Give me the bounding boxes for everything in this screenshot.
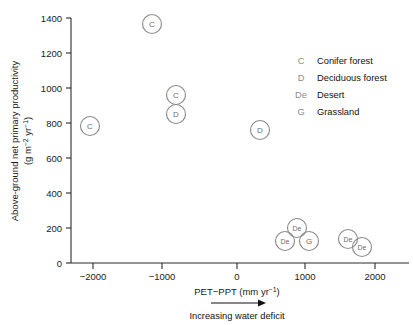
scatter-chart-figure: 1400 1200 1000 800 600 400 bbox=[0, 0, 413, 325]
marker-label: C bbox=[173, 91, 179, 100]
y-tick-label: 1200 bbox=[41, 48, 62, 59]
plot-canvas: 1400 1200 1000 800 600 400 bbox=[0, 0, 413, 325]
y-axis-title-line2: (g m−2 yr−1) bbox=[22, 117, 34, 165]
x-tick-label: 2000 bbox=[364, 271, 385, 282]
legend-label: Desert bbox=[317, 90, 345, 100]
legend: C Conifer forest D Deciduous forest De D… bbox=[295, 56, 387, 117]
legend-item-desert[interactable]: De Desert bbox=[295, 90, 345, 100]
marker-label: De bbox=[293, 225, 302, 232]
y-tick-label: 0 bbox=[57, 258, 62, 269]
marker-label: G bbox=[306, 237, 312, 246]
y-tick-label: 1000 bbox=[41, 83, 62, 94]
y-tick-0: 0 bbox=[57, 258, 71, 269]
y-tick-600: 600 bbox=[46, 153, 71, 164]
y-tick-1400: 1400 bbox=[41, 13, 71, 24]
x-tick-label: −2000 bbox=[80, 271, 107, 282]
y-tick-label: 200 bbox=[46, 223, 62, 234]
x-tick-label: −1000 bbox=[149, 271, 176, 282]
legend-label: Grassland bbox=[317, 107, 359, 117]
data-point-marker[interactable]: G bbox=[300, 232, 319, 251]
data-points-group: C C C D D De bbox=[81, 15, 372, 257]
data-point-marker[interactable]: De bbox=[288, 219, 307, 238]
y-axis-unit-main: (g m bbox=[22, 146, 33, 165]
x-tick-neg1000: −1000 bbox=[149, 263, 176, 282]
legend-key: De bbox=[295, 90, 307, 100]
x-tick-label: 0 bbox=[234, 271, 239, 282]
data-point-marker[interactable]: C bbox=[143, 15, 162, 34]
data-point-marker[interactable]: De bbox=[276, 232, 295, 251]
y-tick-800: 800 bbox=[46, 118, 71, 129]
x-tick-0: 0 bbox=[234, 263, 239, 282]
marker-label: De bbox=[358, 244, 367, 251]
y-tick-label: 400 bbox=[46, 188, 62, 199]
legend-key: G bbox=[297, 107, 304, 117]
x-tick-2000: 2000 bbox=[364, 263, 385, 282]
marker-label: De bbox=[281, 238, 290, 245]
x-axis-title-end: ) bbox=[277, 286, 280, 297]
y-tick-400: 400 bbox=[46, 188, 71, 199]
y-tick-1000: 1000 bbox=[41, 83, 71, 94]
legend-label: Conifer forest bbox=[317, 56, 373, 66]
y-axis-ticks: 1400 1200 1000 800 600 400 bbox=[41, 13, 71, 269]
y-axis-unit-end: ) bbox=[22, 117, 33, 120]
data-point-marker[interactable]: C bbox=[167, 86, 186, 105]
y-axis-title: Above-ground net primary productivity (g… bbox=[9, 60, 33, 221]
data-point-marker[interactable]: De bbox=[353, 238, 372, 257]
data-point-marker[interactable]: C bbox=[81, 117, 100, 136]
legend-key: C bbox=[298, 56, 305, 66]
x-axis-ticks: −2000 −1000 0 1000 2000 bbox=[80, 263, 386, 282]
water-deficit-label: Increasing water deficit bbox=[189, 311, 284, 321]
y-axis-unit-mid: yr bbox=[22, 128, 33, 139]
data-point-marker[interactable]: D bbox=[251, 121, 270, 140]
water-deficit-annotation: Increasing water deficit bbox=[189, 300, 284, 322]
water-deficit-arrow-head bbox=[258, 300, 266, 307]
y-tick-label: 600 bbox=[46, 153, 62, 164]
x-tick-neg2000: −2000 bbox=[80, 263, 107, 282]
data-point-marker[interactable]: D bbox=[167, 105, 186, 124]
x-tick-label: 1000 bbox=[294, 271, 315, 282]
y-axis-title-line1: Above-ground net primary productivity bbox=[9, 60, 20, 221]
x-axis-title-main: PET−PPT (mm yr bbox=[194, 286, 269, 297]
x-axis-title: PET−PPT (mm yr−1) bbox=[194, 286, 279, 298]
legend-key: D bbox=[298, 73, 305, 83]
x-tick-1000: 1000 bbox=[294, 263, 315, 282]
marker-label: C bbox=[87, 122, 93, 131]
legend-item-grassland[interactable]: G Grassland bbox=[297, 107, 359, 117]
y-tick-1200: 1200 bbox=[41, 48, 71, 59]
marker-label: De bbox=[344, 236, 353, 243]
marker-label: D bbox=[173, 110, 179, 119]
legend-item-conifer-forest[interactable]: C Conifer forest bbox=[298, 56, 374, 66]
legend-label: Deciduous forest bbox=[317, 73, 387, 83]
marker-label: D bbox=[257, 126, 263, 135]
data-point-marker[interactable]: De bbox=[339, 230, 358, 249]
y-tick-label: 1400 bbox=[41, 13, 62, 24]
y-tick-200: 200 bbox=[46, 223, 71, 234]
legend-item-deciduous-forest[interactable]: D Deciduous forest bbox=[298, 73, 388, 83]
y-tick-label: 800 bbox=[46, 118, 62, 129]
axes-group bbox=[71, 18, 409, 263]
marker-label: C bbox=[149, 20, 155, 29]
